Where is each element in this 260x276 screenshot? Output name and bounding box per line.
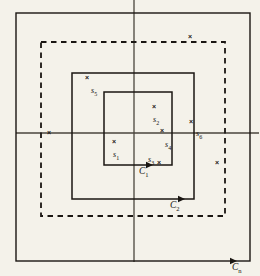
singularity-marker-s2: × — [152, 103, 156, 110]
contour-cn-path — [16, 13, 250, 261]
singularity-marker-unlabeled-top: × — [188, 33, 192, 40]
singularity-label-s2: s2 — [153, 116, 159, 126]
singularity-label-s4: s4 — [165, 141, 171, 151]
singularity-marker-unlabeled-left: × — [47, 129, 51, 136]
singularity-marker-s1: × — [112, 138, 116, 145]
contour-integration-figure: × × × × × × × × × s1 s2 s3 s4 s5 s6 C1 C… — [0, 0, 260, 276]
singularity-label-s3: s3 — [148, 156, 154, 166]
singularity-label-s6: s6 — [196, 130, 202, 140]
singularity-label-s5: s5 — [91, 87, 97, 97]
figure-canvas — [0, 0, 260, 276]
singularity-label-s1: s1 — [113, 151, 119, 161]
contour-label-cn: Cn — [232, 263, 242, 274]
singularity-marker-s6: × — [189, 118, 193, 125]
singularity-marker-s5: × — [85, 74, 89, 81]
contour-label-c2: C2 — [170, 201, 180, 212]
singularity-marker-s3: × — [157, 159, 161, 166]
singularity-marker-s4: × — [160, 127, 164, 134]
singularity-marker-unlabeled-right: × — [215, 159, 219, 166]
contour-label-c1: C1 — [139, 167, 149, 178]
